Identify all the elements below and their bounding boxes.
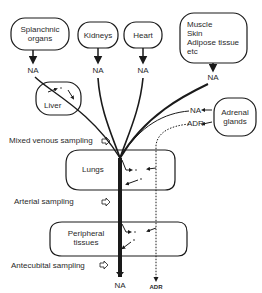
splanchnic-organs-label: Splanchnic organs [12,25,68,43]
adr-label-bottom: ADR [146,283,166,292]
mixed-venous-sampling-label: Mixed venous sampling [9,136,93,145]
liver-label: Liver [44,101,61,110]
peripheral-tissues-label: Peripheral tissues [56,229,116,247]
noradrenaline-kinetics-diagram: Splanchnic organs Kidneys Heart Muscle S… [0,0,262,293]
na-label-bottom: NA [111,281,129,290]
adrenal-glands-label: Adrenal glands [214,108,256,126]
na-label-kidneys: NA [89,66,107,75]
antecubital-sampling-label: Antecubital sampling [11,261,85,270]
na-label-adrenal: NA [190,106,201,115]
arterial-sampling-arrow-icon [102,198,110,206]
adr-label-adrenal: ADR [187,119,204,128]
na-label-muscle: NA [204,73,222,82]
arterial-sampling-label: Arterial sampling [14,197,74,206]
heart-label: Heart [124,31,162,40]
na-label-splanchnic: NA [24,66,42,75]
liver-box [36,82,81,115]
lungs-label: Lungs [82,165,104,174]
antecubital-sampling-arrow-icon [100,261,108,269]
na-label-heart: NA [134,66,152,75]
kidneys-label: Kidneys [78,31,118,40]
muscle-skin-label: Muscle Skin Adipose tissue etc [187,20,239,56]
